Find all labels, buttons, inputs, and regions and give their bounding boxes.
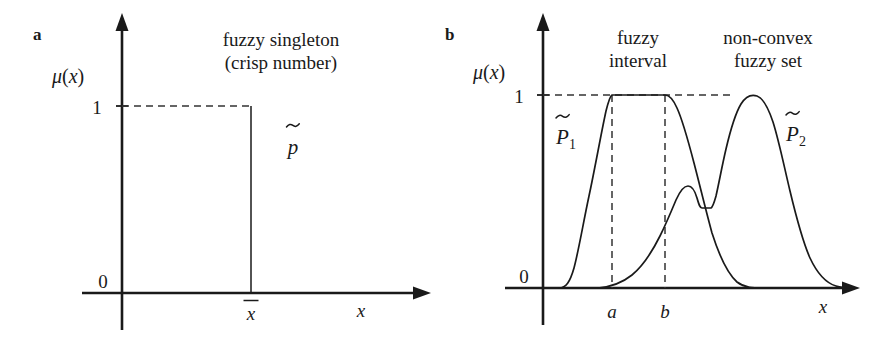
panel-a-x-axis-arrow bbox=[413, 287, 431, 300]
panel-a-title-line1: fuzzy singleton bbox=[223, 29, 340, 50]
panel-b-curve-label-p1: P1 bbox=[555, 115, 576, 152]
panel-a: a μ(x) 1 0 fuzzy singleton bbox=[33, 13, 431, 330]
panel-b-letter: b bbox=[445, 25, 454, 44]
panel-b-curve-label-p2-tilde bbox=[786, 112, 799, 115]
panel-a-tick-one-label: 1 bbox=[92, 97, 102, 118]
panel-b-curve-label-p1-sub: 1 bbox=[569, 137, 576, 152]
panel-b-title-left-line2: interval bbox=[609, 50, 667, 71]
figure-container: a μ(x) 1 0 fuzzy singleton bbox=[0, 0, 895, 343]
panel-a-xbar-label: x bbox=[244, 301, 259, 325]
panel-b-curve-label-p1-tilde bbox=[556, 115, 569, 118]
panel-b-curve-label-p2-sub: 2 bbox=[799, 134, 806, 149]
svg-text:μ(x): μ(x) bbox=[51, 65, 84, 88]
panel-a-paren-close: ) bbox=[78, 65, 85, 88]
panel-b-title-left-line1: fuzzy bbox=[617, 27, 660, 48]
panel-b-x-axis-label: x bbox=[818, 296, 828, 317]
panel-a-curve-label-tilde bbox=[287, 124, 300, 127]
panel-b-curve-label-p2-base: P bbox=[785, 122, 799, 146]
fuzzy-sets-figure: a μ(x) 1 0 fuzzy singleton bbox=[0, 0, 895, 343]
panel-a-letter: a bbox=[33, 25, 42, 44]
panel-b-paren-close: ) bbox=[499, 61, 506, 84]
panel-a-xbar-base: x bbox=[246, 303, 256, 324]
panel-b-curve-p2 bbox=[598, 95, 853, 288]
panel-a-tick-zero-label: 0 bbox=[98, 271, 108, 292]
panel-b-mu-arg: x bbox=[489, 61, 499, 83]
svg-text:μ(x): μ(x) bbox=[472, 61, 505, 84]
panel-a-curve-label-base: p bbox=[286, 135, 299, 159]
panel-a-mu-arg: x bbox=[68, 65, 78, 87]
panel-b-title-right-line2: fuzzy set bbox=[734, 50, 803, 71]
panel-b-y-axis-arrow bbox=[537, 13, 550, 31]
panel-b-tick-a-label: a bbox=[607, 301, 617, 322]
panel-a-curve-label-p-tilde: p bbox=[286, 124, 300, 159]
panel-b-y-axis-label: μ(x) bbox=[472, 61, 505, 84]
panel-b-mu-symbol: μ bbox=[472, 61, 483, 84]
panel-b-tick-zero-label: 0 bbox=[519, 266, 529, 287]
panel-b-title-right-line1: non-convex bbox=[723, 27, 813, 48]
panel-b-curve-label-p1-base: P bbox=[555, 125, 569, 149]
panel-a-y-axis-label: μ(x) bbox=[51, 65, 84, 88]
panel-b: b μ(x) 1 0 bbox=[445, 13, 860, 325]
panel-a-x-axis-label: x bbox=[356, 300, 366, 321]
panel-b-tick-one-label: 1 bbox=[514, 86, 524, 107]
panel-a-y-axis-arrow bbox=[116, 13, 129, 31]
panel-a-title-line2: (crisp number) bbox=[225, 52, 337, 74]
panel-a-mu-symbol: μ bbox=[51, 65, 62, 88]
svg-text:P2: P2 bbox=[785, 122, 806, 149]
panel-b-curve-label-p2: P2 bbox=[785, 112, 806, 149]
panel-b-tick-b-label: b bbox=[660, 301, 670, 322]
svg-text:P1: P1 bbox=[555, 125, 576, 152]
